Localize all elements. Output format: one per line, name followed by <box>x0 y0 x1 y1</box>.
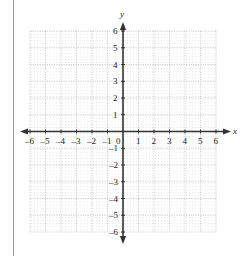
y-axis-bottom-arrowhead <box>120 236 126 244</box>
x-tick-label-4: 4 <box>183 137 188 146</box>
coordinate-plane-svg <box>0 0 242 256</box>
y-tick-label--2: –2 <box>109 161 118 170</box>
y-tick-label-5: 5 <box>113 44 118 53</box>
x-tick-label--6: –6 <box>25 137 34 146</box>
y-tick-label-2: 2 <box>113 94 118 103</box>
y-tick-label-1: 1 <box>113 111 118 120</box>
y-tick-label--3: –3 <box>109 178 118 187</box>
y-axis-label: y <box>120 10 124 19</box>
y-tick-label-3: 3 <box>113 77 118 86</box>
x-tick-label-5: 5 <box>198 137 203 146</box>
x-tick-label--2: –2 <box>87 137 96 146</box>
x-tick-label-3: 3 <box>167 137 172 146</box>
y-tick-label--1: –1 <box>109 144 118 153</box>
x-tick-label-2: 2 <box>152 137 157 146</box>
x-tick-label--4: –4 <box>56 137 65 146</box>
y-axis-top-arrowhead <box>120 22 126 30</box>
y-tick-label-4: 4 <box>113 61 118 70</box>
x-axis-right-arrowhead <box>223 128 231 134</box>
x-axis-label: x <box>233 127 237 136</box>
y-tick-label--4: –4 <box>109 195 118 204</box>
y-tick-label-6: 6 <box>113 27 118 36</box>
x-tick-label-6: 6 <box>214 137 219 146</box>
x-tick-label--3: –3 <box>72 137 81 146</box>
x-tick-label-1: 1 <box>136 137 141 146</box>
x-axis-left-arrowhead <box>20 128 28 134</box>
y-tick-label--5: –5 <box>109 211 118 220</box>
x-tick-label--5: –5 <box>41 137 50 146</box>
y-tick-label--6: –6 <box>109 228 118 237</box>
coordinate-grid-figure: –6 –5 –4 –3 –2 –1 0 1 2 3 4 5 6 6 5 4 3 … <box>0 0 242 256</box>
